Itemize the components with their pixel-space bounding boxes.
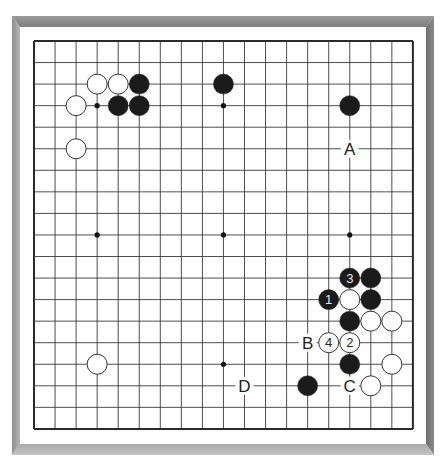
stone-disc xyxy=(361,290,381,310)
stone-disc xyxy=(340,354,360,374)
marker-c: C xyxy=(341,377,359,396)
stone-disc xyxy=(66,96,86,116)
white-stone[interactable] xyxy=(66,139,86,159)
white-stone[interactable] xyxy=(361,311,381,331)
black-stone[interactable] xyxy=(340,354,360,374)
stone-disc xyxy=(340,311,360,331)
black-stone[interactable] xyxy=(108,96,128,116)
move-number: 1 xyxy=(325,292,332,307)
black-stone[interactable] xyxy=(361,268,381,288)
white-stone[interactable] xyxy=(108,74,128,94)
white-stone[interactable] xyxy=(66,96,86,116)
stone-disc xyxy=(108,96,128,116)
black-stone[interactable] xyxy=(129,74,149,94)
move-number: 3 xyxy=(346,271,353,286)
white-stone[interactable] xyxy=(87,354,107,374)
black-stone[interactable] xyxy=(213,74,233,94)
star-point xyxy=(221,362,226,367)
stone-disc xyxy=(361,268,381,288)
star-point xyxy=(95,103,100,108)
stone-disc xyxy=(129,96,149,116)
black-stone[interactable] xyxy=(361,290,381,310)
marker-label: A xyxy=(344,140,356,159)
white-stone-2[interactable]: 2 xyxy=(340,333,360,353)
black-stone-3[interactable]: 3 xyxy=(340,268,360,288)
stone-disc xyxy=(66,139,86,159)
stone-disc xyxy=(382,311,402,331)
stone-disc xyxy=(361,376,381,396)
go-board[interactable]: ABCD 3142 xyxy=(0,0,447,469)
white-stone[interactable] xyxy=(87,74,107,94)
marker-a: A xyxy=(341,140,359,159)
white-stone[interactable] xyxy=(382,354,402,374)
white-stone-4[interactable]: 4 xyxy=(319,333,339,353)
stone-disc xyxy=(108,74,128,94)
stone-disc xyxy=(213,74,233,94)
star-point xyxy=(95,232,100,237)
move-number: 4 xyxy=(325,335,332,350)
marker-label: C xyxy=(344,377,356,396)
stone-disc xyxy=(340,96,360,116)
marker-label: D xyxy=(238,377,250,396)
stone-disc xyxy=(298,376,318,396)
black-stone[interactable] xyxy=(340,311,360,331)
white-stone[interactable] xyxy=(340,290,360,310)
black-stone[interactable] xyxy=(129,96,149,116)
stone-disc xyxy=(340,290,360,310)
move-number: 2 xyxy=(346,335,353,350)
position-markers: ABCD xyxy=(236,140,359,396)
black-stone-1[interactable]: 1 xyxy=(319,290,339,310)
stone-disc xyxy=(361,311,381,331)
black-stone[interactable] xyxy=(298,376,318,396)
star-point xyxy=(347,232,352,237)
stone-disc xyxy=(382,354,402,374)
stone-disc xyxy=(129,74,149,94)
white-stone[interactable] xyxy=(382,311,402,331)
star-point xyxy=(221,232,226,237)
stone-disc xyxy=(87,354,107,374)
marker-b: B xyxy=(299,334,317,353)
marker-label: B xyxy=(302,334,313,353)
white-stone[interactable] xyxy=(361,376,381,396)
stone-disc xyxy=(87,74,107,94)
black-stone[interactable] xyxy=(340,96,360,116)
marker-d: D xyxy=(236,377,254,396)
star-point xyxy=(221,103,226,108)
